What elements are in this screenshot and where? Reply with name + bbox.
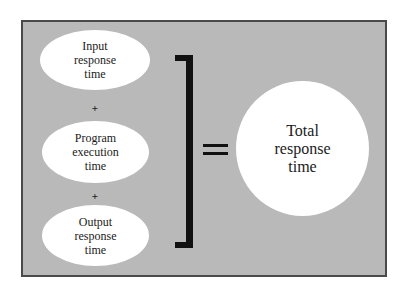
circle-label-line: Total [286, 122, 319, 140]
total-response-time-circle: Total response time [236, 81, 369, 216]
ellipse-label-line: time [85, 243, 106, 257]
ellipse-label-line: response [74, 53, 116, 67]
ellipse-label-line: response [75, 229, 117, 243]
equals-sign-icon [203, 144, 228, 156]
ellipse-label-line: Program [75, 131, 116, 145]
equals-bar [203, 152, 228, 155]
closing-bracket-icon [175, 55, 193, 248]
equals-bar [203, 144, 228, 147]
plus-sign: + [85, 102, 105, 114]
output-response-time-ellipse: Output response time [42, 205, 149, 266]
circle-label-line: response [275, 140, 331, 158]
plus-sign: + [85, 190, 105, 202]
ellipse-label-line: time [85, 159, 106, 173]
ellipse-label-line: Input [82, 39, 107, 53]
ellipse-label-line: time [84, 67, 105, 81]
circle-label-line: time [288, 158, 316, 176]
ellipse-label-line: execution [72, 145, 119, 159]
diagram-canvas: Input response time + Program execution … [0, 0, 406, 292]
program-execution-time-ellipse: Program execution time [42, 121, 149, 183]
ellipse-label-line: Output [79, 215, 112, 229]
input-response-time-ellipse: Input response time [40, 30, 150, 90]
